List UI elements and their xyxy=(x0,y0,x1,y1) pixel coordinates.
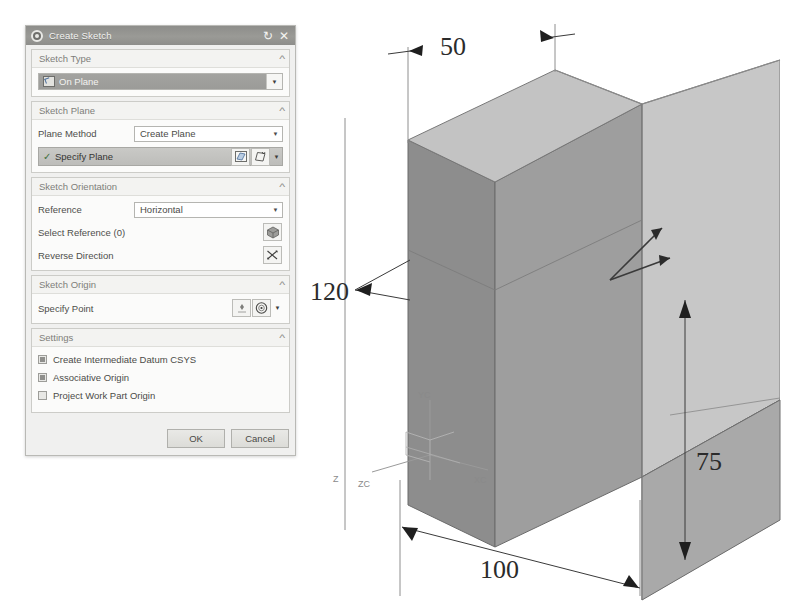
model-svg: YC ZC XC Z 50 120 xyxy=(310,0,791,616)
chevron-up-icon[interactable]: ^ xyxy=(279,54,285,64)
chevron-down-icon[interactable]: ▼ xyxy=(271,154,282,160)
group-header-sketch-orientation[interactable]: Sketch Orientation ^ xyxy=(32,178,289,196)
cancel-button[interactable]: Cancel xyxy=(231,429,289,448)
checkbox-row-project-work-part-origin[interactable]: Project Work Part Origin xyxy=(38,388,283,403)
row-specify-point: Specify Point ▼ xyxy=(38,299,283,317)
group-content-sketch-orientation: Reference Horizontal ▼ Select Reference … xyxy=(32,196,289,270)
chevron-down-icon[interactable]: ▼ xyxy=(266,74,282,89)
group-header-sketch-plane[interactable]: Sketch Plane ^ xyxy=(32,102,289,120)
z-axis-label-outer: Z xyxy=(333,474,339,484)
group-header-settings[interactable]: Settings ^ xyxy=(32,329,289,347)
reverse-direction-label: Reverse Direction xyxy=(38,250,263,261)
plane-method-label: Plane Method xyxy=(38,128,134,139)
group-sketch-origin: Sketch Origin ^ Specify Point xyxy=(31,275,290,324)
x-axis-label: XC xyxy=(474,475,487,485)
point-snap-glyph xyxy=(235,302,249,315)
plane-dialog-glyph xyxy=(235,151,247,162)
specify-plane-label: Specify Plane xyxy=(55,151,231,162)
reverse-arrows-glyph xyxy=(266,249,279,261)
dimension-value-bottom-width: 100 xyxy=(480,555,519,584)
point-snap-icon[interactable] xyxy=(232,299,251,317)
chevron-up-icon[interactable]: ^ xyxy=(279,280,285,290)
specify-plane-actions: ▼ xyxy=(231,148,282,166)
dimension-value-right-height: 75 xyxy=(696,447,722,476)
chevron-up-icon[interactable]: ^ xyxy=(279,333,285,343)
dialog-title: Create Sketch xyxy=(49,30,259,41)
group-settings: Settings ^ Create Intermediate Datum CSY… xyxy=(31,328,290,413)
group-title: Sketch Orientation xyxy=(39,181,280,192)
select-plane-glyph xyxy=(254,151,267,163)
chevron-up-icon[interactable]: ^ xyxy=(279,182,285,192)
z-axis-label: ZC xyxy=(358,479,370,489)
sketch-plane-icon xyxy=(43,76,55,87)
sketch-type-selector[interactable]: On Plane ▼ xyxy=(38,73,283,90)
reference-value: Horizontal xyxy=(140,204,269,215)
specify-point-label: Specify Point xyxy=(38,303,232,314)
create-sketch-dialog: Create Sketch ↻ ✕ Sketch Type ^ On Plane… xyxy=(25,25,296,456)
row-plane-method: Plane Method Create Plane ▼ xyxy=(38,125,283,142)
dimension-value-top-width: 50 xyxy=(440,32,466,61)
group-sketch-orientation: Sketch Orientation ^ Reference Horizonta… xyxy=(31,177,290,271)
checkbox-label: Project Work Part Origin xyxy=(53,390,155,401)
row-reverse-direction: Reverse Direction xyxy=(38,246,283,264)
point-target-glyph xyxy=(254,301,269,315)
dialog-titlebar: Create Sketch ↻ ✕ xyxy=(26,26,295,45)
group-title: Sketch Plane xyxy=(39,105,280,116)
cube-select-glyph xyxy=(266,226,280,239)
graphics-view[interactable]: YC ZC XC Z 50 120 xyxy=(310,0,791,616)
dialog-footer: OK Cancel xyxy=(26,421,295,455)
group-content-sketch-type: On Plane ▼ xyxy=(32,68,289,96)
chevron-down-icon[interactable]: ▼ xyxy=(272,305,283,311)
checkmark-icon: ✓ xyxy=(43,152,51,162)
sketch-type-value: On Plane xyxy=(59,76,99,87)
reset-icon[interactable]: ↻ xyxy=(260,28,275,43)
plane-dialog-icon[interactable] xyxy=(231,148,250,166)
chevron-down-icon[interactable]: ▼ xyxy=(269,203,282,217)
group-content-sketch-origin: Specify Point ▼ xyxy=(32,294,289,323)
group-content-settings: Create Intermediate Datum CSYS Associati… xyxy=(32,347,289,412)
chevron-up-icon[interactable]: ^ xyxy=(279,106,285,116)
face-left xyxy=(408,140,495,547)
reverse-arrows-icon[interactable] xyxy=(263,246,282,264)
ok-button[interactable]: OK xyxy=(167,429,225,448)
sketch-type-value-area[interactable]: On Plane xyxy=(39,74,266,89)
point-target-icon[interactable] xyxy=(252,299,271,317)
group-sketch-plane: Sketch Plane ^ Plane Method Create Plane… xyxy=(31,101,290,173)
group-title: Settings xyxy=(39,332,280,343)
checkbox-row-associative-origin[interactable]: Associative Origin xyxy=(38,370,283,385)
close-icon[interactable]: ✕ xyxy=(276,28,291,43)
group-title: Sketch Origin xyxy=(39,279,280,290)
dialog-body: Sketch Type ^ On Plane ▼ Sketch Plane ^ xyxy=(26,45,295,421)
row-select-reference: Select Reference (0) xyxy=(38,223,283,241)
plane-method-select[interactable]: Create Plane ▼ xyxy=(134,126,283,142)
checkbox-label: Create Intermediate Datum CSYS xyxy=(53,354,196,365)
y-axis-label: YC xyxy=(418,390,431,400)
select-reference-label: Select Reference (0) xyxy=(38,227,263,238)
checkbox-label: Associative Origin xyxy=(53,372,129,383)
checkbox-row-create-intermediate-datum-csys[interactable]: Create Intermediate Datum CSYS xyxy=(38,352,283,367)
select-plane-icon[interactable] xyxy=(251,148,270,166)
specify-plane-row[interactable]: ✓ Specify Plane xyxy=(38,147,283,166)
target-gear-icon xyxy=(31,30,43,42)
group-header-sketch-origin[interactable]: Sketch Origin ^ xyxy=(32,276,289,294)
chevron-down-icon[interactable]: ▼ xyxy=(269,127,282,141)
row-reference: Reference Horizontal ▼ xyxy=(38,201,283,218)
dimension-left-height: 120 xyxy=(310,118,410,530)
group-content-sketch-plane: Plane Method Create Plane ▼ ✓ Specify Pl… xyxy=(32,120,289,172)
cube-select-icon[interactable] xyxy=(263,223,282,241)
checkbox-create-intermediate-datum-csys[interactable] xyxy=(38,355,47,364)
group-title: Sketch Type xyxy=(39,53,280,64)
group-sketch-type: Sketch Type ^ On Plane ▼ xyxy=(31,49,290,97)
group-header-sketch-type[interactable]: Sketch Type ^ xyxy=(32,50,289,68)
plane-method-value: Create Plane xyxy=(140,128,269,139)
checkbox-associative-origin[interactable] xyxy=(38,373,47,382)
dimension-value-left-height: 120 xyxy=(310,277,349,306)
checkbox-project-work-part-origin[interactable] xyxy=(38,391,47,400)
reference-label: Reference xyxy=(38,204,134,215)
reference-select[interactable]: Horizontal ▼ xyxy=(134,202,283,218)
